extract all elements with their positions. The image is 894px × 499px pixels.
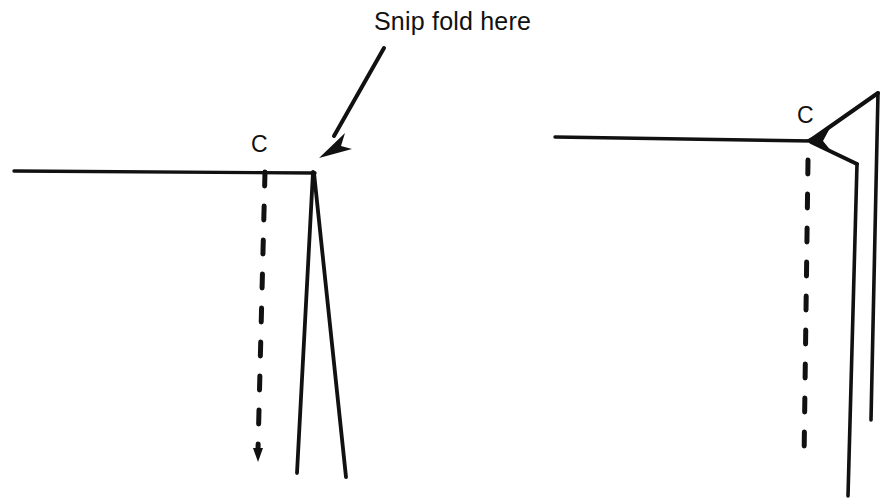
fold-direction-arrowhead-icon [253, 448, 263, 462]
left-panel-group [14, 171, 346, 477]
right-horizontal-edge-line [555, 137, 812, 141]
right-dashed-fold-line [804, 160, 808, 462]
point-c-arrowhead-icon [806, 128, 832, 152]
point-label-right-c: C [797, 104, 814, 127]
flap-upper-vertical [871, 93, 878, 420]
v-flap-left-leg [297, 172, 313, 473]
figure-canvas: Snip fold here C C [0, 0, 894, 499]
annotation-label: Snip fold here [374, 9, 531, 34]
figure-drawing [0, 0, 894, 499]
left-dashed-fold-line [258, 172, 265, 450]
right-panel-group [555, 93, 878, 496]
annotation-arrow-group [319, 48, 384, 158]
annotation-arrow-shaft [334, 48, 384, 136]
flap-lower-vertical [848, 164, 857, 496]
point-label-left-c: C [251, 133, 268, 156]
v-flap-right-leg [314, 173, 346, 477]
snipped-flap-lower [811, 142, 857, 496]
left-v-flap-outline [297, 172, 346, 477]
left-horizontal-edge-line [14, 171, 315, 173]
left-dashed-fold-line-group [253, 172, 265, 462]
